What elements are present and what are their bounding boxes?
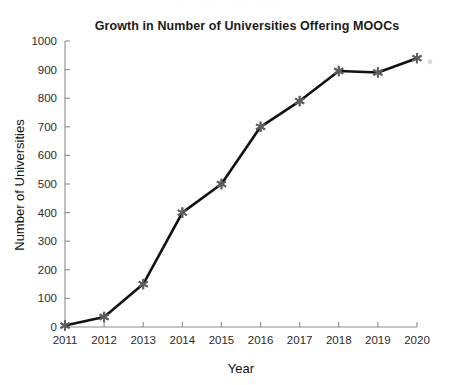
scan-speck	[428, 60, 433, 65]
x-tick-label: 2019	[365, 334, 391, 346]
y-axis-title: Number of Universities	[12, 119, 27, 251]
x-tick-label: 2018	[326, 334, 352, 346]
y-tick-label: 800	[38, 92, 57, 104]
y-tick-label: 0	[51, 321, 57, 333]
data-series-universities	[60, 53, 421, 331]
line-chart-plot: 01002003004005006007008009001000 2011201…	[0, 0, 451, 385]
axis-spines	[65, 41, 417, 327]
y-tick-label: 400	[38, 207, 57, 219]
series-line	[65, 58, 417, 325]
y-tick-label: 1000	[31, 35, 57, 47]
x-tick-label: 2011	[53, 334, 78, 346]
x-axis-title: Year	[228, 361, 255, 376]
y-tick-label: 200	[38, 264, 57, 276]
x-axis-tick-labels: 2011201220132014201520162017201820192020	[53, 334, 430, 346]
y-tick-label: 500	[38, 178, 57, 190]
y-tick-label: 100	[38, 292, 57, 304]
y-axis-tick-labels: 01002003004005006007008009001000	[31, 35, 57, 333]
x-tick-label: 2016	[248, 334, 274, 346]
y-tick-label: 900	[38, 64, 57, 76]
y-tick-label: 300	[38, 235, 57, 247]
x-tick-label: 2015	[209, 334, 235, 346]
x-tick-label: 2012	[91, 334, 117, 346]
y-tick-label: 700	[38, 121, 57, 133]
x-tick-label: 2017	[287, 334, 313, 346]
y-tick-label: 600	[38, 149, 57, 161]
chart-figure: - -- - - -- - - -- - - -- Growth in Numb…	[0, 0, 451, 385]
x-tick-label: 2014	[170, 334, 196, 346]
chart-axes	[65, 41, 417, 327]
x-tick-label: 2013	[130, 334, 156, 346]
x-tick-label: 2020	[404, 334, 430, 346]
